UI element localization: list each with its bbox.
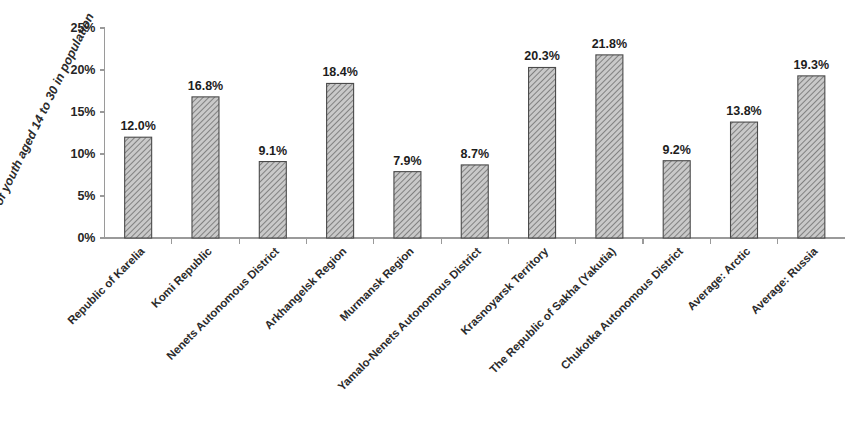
bar-value-label: 18.4% — [322, 65, 357, 79]
bar-value-label: 21.8% — [592, 37, 627, 51]
bar-value-label: 19.3% — [794, 58, 829, 72]
bar-value-label: 8.7% — [461, 147, 490, 161]
bar — [461, 165, 488, 238]
bar-value-label: 7.9% — [393, 154, 422, 168]
bar-value-label: 9.1% — [259, 144, 288, 158]
bar — [327, 83, 354, 238]
bar-value-label: 16.8% — [188, 79, 223, 93]
bar — [596, 55, 623, 238]
y-axis-tick-label: 20% — [70, 63, 95, 77]
bar — [529, 67, 556, 238]
bar — [731, 122, 758, 238]
chart-canvas: Proportion of youth aged 14 to 30 in pop… — [0, 0, 862, 428]
y-axis-tick-label: 0% — [77, 231, 95, 245]
bar-value-label: 12.0% — [120, 119, 155, 133]
y-axis-tick-label: 25% — [70, 21, 95, 35]
bar — [394, 172, 421, 238]
bar-value-label: 20.3% — [524, 49, 559, 63]
bar-value-label: 13.8% — [726, 104, 761, 118]
bar-value-label: 9.2% — [662, 143, 691, 157]
bar-chart: Proportion of youth aged 14 to 30 in pop… — [0, 0, 862, 428]
y-axis-tick-label: 15% — [70, 105, 95, 119]
bar — [192, 97, 219, 238]
bar — [798, 76, 825, 238]
bar — [125, 137, 152, 238]
bar — [259, 162, 286, 238]
y-axis-tick-label: 5% — [77, 189, 95, 203]
y-axis-tick-label: 10% — [70, 147, 95, 161]
bar — [663, 161, 690, 238]
